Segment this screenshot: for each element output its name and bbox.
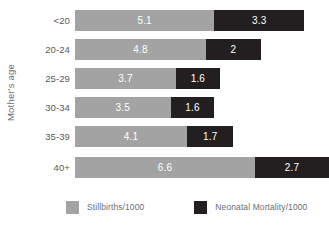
category-label: 40+	[22, 162, 75, 173]
y-axis-title: Mother's age	[0, 0, 22, 185]
bar-value-label: 3.5	[116, 103, 131, 113]
plot-area: <20 5.1 3.3 20-24 4.8 2 25	[22, 6, 329, 186]
category-label: 20-24	[22, 44, 75, 55]
bar-segment-stillbirths[interactable]: 4.1	[75, 126, 187, 147]
bar-track: 3.7 1.6	[75, 68, 329, 89]
legend-label: Stillbirths/1000	[87, 202, 144, 212]
bar-value-label: 6.6	[158, 163, 173, 173]
bar-segment-neonatal[interactable]: 1.6	[171, 97, 215, 118]
category-label: 35-39	[22, 131, 75, 142]
bar-value-label: 4.1	[124, 132, 139, 142]
legend-item-neonatal[interactable]: Neonatal Mortality/1000	[194, 201, 307, 214]
bar-row: 40+ 6.6 2.7	[22, 157, 329, 178]
category-label: 25-29	[22, 73, 75, 84]
bar-value-label: 2	[231, 45, 237, 55]
bar-value-label: 1.6	[191, 74, 206, 84]
bar-row: <20 5.1 3.3	[22, 10, 329, 31]
bar-row: 25-29 3.7 1.6	[22, 68, 329, 89]
legend-item-stillbirths[interactable]: Stillbirths/1000	[66, 201, 144, 214]
bar-segment-neonatal[interactable]: 1.6	[176, 68, 220, 89]
bar-track: 5.1 3.3	[75, 10, 329, 31]
legend-swatch-icon	[66, 201, 79, 214]
bar-segment-stillbirths[interactable]: 3.7	[75, 68, 176, 89]
bar-segment-stillbirths[interactable]: 4.8	[75, 39, 206, 60]
bar-segment-neonatal[interactable]: 1.7	[187, 126, 233, 147]
bar-segment-stillbirths[interactable]: 5.1	[75, 10, 214, 31]
bar-track: 6.6 2.7	[75, 157, 329, 178]
bar-segment-neonatal[interactable]: 2.7	[255, 157, 329, 178]
bar-value-label: 3.7	[118, 74, 133, 84]
bar-segment-stillbirths[interactable]: 6.6	[75, 157, 255, 178]
category-label: 30-34	[22, 102, 75, 113]
bar-segment-neonatal[interactable]: 3.3	[214, 10, 304, 31]
legend-swatch-icon	[194, 201, 207, 214]
bar-track: 3.5 1.6	[75, 97, 329, 118]
bar-value-label: 4.8	[133, 45, 148, 55]
bar-row: 20-24 4.8 2	[22, 39, 329, 60]
bar-value-label: 2.7	[285, 163, 300, 173]
bar-track: 4.1 1.7	[75, 126, 329, 147]
bar-value-label: 5.1	[137, 16, 152, 26]
stacked-bar-chart: Mother's age <20 5.1 3.3 20-24 4.8 2	[0, 0, 329, 238]
chart-legend: Stillbirths/1000 Neonatal Mortality/1000	[22, 196, 329, 218]
bar-segment-stillbirths[interactable]: 3.5	[75, 97, 171, 118]
bar-value-label: 1.6	[185, 103, 200, 113]
legend-label: Neonatal Mortality/1000	[215, 202, 307, 212]
y-axis-title-label: Mother's age	[6, 64, 17, 121]
bar-value-label: 3.3	[252, 16, 267, 26]
bar-row: 30-34 3.5 1.6	[22, 97, 329, 118]
category-label: <20	[22, 15, 75, 26]
bar-value-label: 1.7	[203, 132, 218, 142]
bar-row: 35-39 4.1 1.7	[22, 126, 329, 147]
bar-track: 4.8 2	[75, 39, 329, 60]
bar-segment-neonatal[interactable]: 2	[206, 39, 261, 60]
